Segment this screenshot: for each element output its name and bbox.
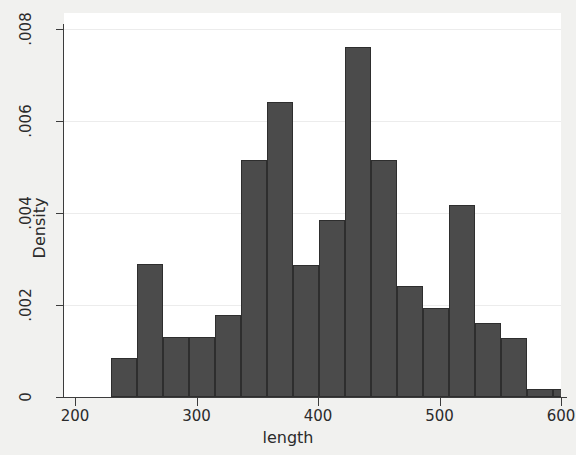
y-tick-mark [56, 397, 64, 398]
histogram-bar [111, 358, 137, 397]
histogram-bar [215, 315, 241, 397]
x-tick-mark [197, 398, 198, 406]
x-tick-label: 400 [304, 407, 333, 425]
histogram-bar [267, 102, 293, 397]
x-tick-label: 600 [547, 407, 576, 425]
histogram-bar [345, 47, 371, 397]
y-tick-label: .002 [17, 288, 35, 321]
histogram-bar [241, 160, 267, 397]
x-tick-label: 200 [61, 407, 90, 425]
y-axis-line [63, 24, 64, 398]
x-tick-mark [75, 398, 76, 406]
histogram-bar [423, 308, 449, 397]
histogram-bar [553, 389, 561, 397]
x-axis-title: length [0, 428, 576, 447]
histogram-bar [137, 264, 163, 397]
histogram-bar [189, 337, 215, 397]
y-tick-mark [56, 121, 64, 122]
x-tick-label: 300 [182, 407, 211, 425]
y-tick-mark [56, 213, 64, 214]
x-tick-label: 500 [425, 407, 454, 425]
gridline [64, 29, 561, 30]
x-tick-mark [318, 398, 319, 406]
x-tick-mark [440, 398, 441, 406]
gridline [64, 213, 561, 214]
histogram-bar [163, 337, 189, 397]
histogram-bar [449, 205, 475, 397]
y-tick-label: .006 [17, 104, 35, 137]
y-tick-label: .008 [17, 12, 35, 45]
y-tick-mark [56, 305, 64, 306]
x-tick-mark [561, 398, 562, 406]
x-axis-line [63, 397, 567, 398]
y-axis-title: Density [30, 197, 49, 258]
gridline [64, 121, 561, 122]
histogram-bar [501, 338, 527, 397]
histogram-bar [397, 286, 423, 397]
plot-area [64, 13, 561, 397]
histogram-bar [527, 389, 553, 397]
histogram-bar [319, 220, 345, 397]
histogram-figure: 0.002.004.006.008 200300400500600 Densit… [0, 0, 576, 455]
y-tick-mark [56, 29, 64, 30]
histogram-bar [371, 160, 397, 397]
histogram-bar [293, 265, 319, 397]
y-tick-label: 0 [17, 392, 35, 402]
histogram-bar [475, 323, 501, 397]
